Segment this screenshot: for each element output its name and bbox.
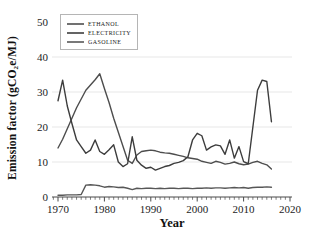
y-tick-label: 20 xyxy=(37,121,49,133)
x-tick-label: 1980 xyxy=(93,203,116,215)
y-tick-label: 0 xyxy=(43,191,49,203)
x-tick-label: 1990 xyxy=(140,203,163,215)
series-line-gasoline xyxy=(58,185,271,196)
legend-item-gasoline: GASOLINE xyxy=(67,37,132,46)
x-tick-label: 2000 xyxy=(186,203,209,215)
gasoline-line-sample-icon xyxy=(67,40,84,44)
line-chart-canvas: 19701980199020002010202001020304050 xyxy=(0,0,319,250)
y-tick-label: 10 xyxy=(37,156,49,168)
ethanol-line-sample-icon xyxy=(67,22,84,26)
y-tick-label: 30 xyxy=(37,86,49,98)
electricity-line-sample-icon xyxy=(67,31,84,35)
x-axis-label: Year xyxy=(52,216,292,231)
series-line-ethanol xyxy=(58,74,271,169)
x-tick-label: 2020 xyxy=(279,203,302,215)
legend: ETHANOL ELECTRICITY GASOLINE xyxy=(60,14,138,50)
series-line-electricity xyxy=(58,80,271,170)
y-tick-label: 50 xyxy=(37,16,49,28)
x-tick-label: 2010 xyxy=(233,203,256,215)
legend-item-electricity: ELECTRICITY xyxy=(67,28,132,37)
legend-label-ethanol: ETHANOL xyxy=(88,21,119,27)
y-axis-label: Emission factor (gCO₂e/MJ) xyxy=(6,13,22,203)
legend-label-gasoline: GASOLINE xyxy=(88,39,121,45)
legend-item-ethanol: ETHANOL xyxy=(67,19,132,28)
x-tick-label: 1970 xyxy=(47,203,70,215)
y-tick-label: 40 xyxy=(37,51,49,63)
legend-label-electricity: ELECTRICITY xyxy=(88,30,131,36)
emission-factor-figure: 19701980199020002010202001020304050 Emis… xyxy=(0,0,319,250)
